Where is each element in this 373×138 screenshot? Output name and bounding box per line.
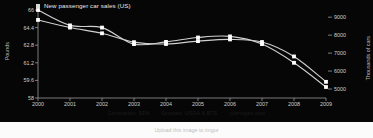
x-axis-tick-label: 2003 [124,101,144,107]
left-axis-tick-label: 66 [10,7,34,13]
x-axis-tick-label: 2008 [284,101,304,107]
data-point [132,40,136,44]
left-axis-tick-label: 62.8 [10,42,34,48]
data-point [324,80,328,84]
data-point [68,26,72,30]
upload-bar[interactable]: Upload this image to imgur [0,122,373,138]
caption-site: tylervigen.com [229,110,265,116]
data-point [196,39,200,43]
data-point [100,26,104,30]
chart-panel: New passenger car sales (US) Pounds Thou… [0,0,373,122]
chart-screenshot: New passenger car sales (US) Pounds Thou… [0,0,373,138]
right-axis-tick-label: 9000 [334,14,346,20]
data-point [100,31,104,35]
left-axis-tick-label: 61.2 [10,60,34,66]
data-point [324,85,328,89]
chart-legend: New passenger car sales (US) [36,2,131,9]
caption-sources: Sources: USDA & BTS [161,110,217,116]
legend-label: New passenger car sales (US) [44,2,131,9]
series-line-2 [38,20,326,82]
series-line-1 [38,10,326,87]
x-axis-tick-label: 2009 [316,101,336,107]
data-point [292,55,296,59]
data-point [164,42,168,46]
x-axis-tick-label: 2007 [252,101,272,107]
right-axis-tick-label: 5000 [334,86,346,92]
x-axis-tick-label: 2002 [92,101,112,107]
right-axis-tick-label: 8000 [334,32,346,38]
upload-bar-label: Upload this image to imgur [154,127,218,133]
caption-correlation: Correlation: 99% [108,110,150,116]
left-axis-tick-label: 64.4 [10,25,34,31]
x-axis-tick-label: 2001 [60,101,80,107]
plot-area [38,10,326,98]
legend-marker-icon [36,4,40,8]
right-axis-title: Thousands of cars [365,36,371,80]
data-point [260,40,264,44]
x-axis-tick-label: 2004 [156,101,176,107]
data-point [36,8,40,12]
x-axis-tick-label: 2006 [220,101,240,107]
data-point [228,38,232,42]
series-layer [36,8,328,89]
right-axis-tick-label: 7000 [334,50,346,56]
left-axis-tick-label: 59.6 [10,77,34,83]
data-point [196,36,200,40]
x-axis-tick-label: 2005 [188,101,208,107]
x-axis-tick-label: 2000 [28,101,48,107]
tick-marks [35,10,332,101]
chart-caption: Correlation: 99% Sources: USDA & BTS tyl… [0,110,373,116]
data-point [36,18,40,22]
right-axis-tick-label: 6000 [334,68,346,74]
axis-lines [38,10,326,98]
data-point [292,61,296,65]
